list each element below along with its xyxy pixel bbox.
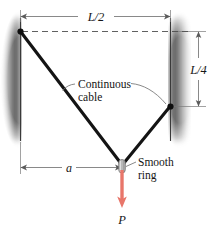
anchor-dot-left: [17, 28, 23, 34]
annotation-smooth-ring: Smooth ring: [126, 156, 174, 182]
right-wall-shading: [170, 16, 189, 142]
dim-label-L2: L/2: [87, 10, 105, 24]
dim-label-a: a: [66, 161, 72, 175]
statics-figure: L/2 L/4 a: [0, 0, 220, 228]
annotation-cable-line1: Continuous: [78, 78, 132, 90]
left-wall: [1, 16, 21, 142]
dim-label-L4: L/4: [189, 63, 207, 77]
dimension-drop-L4: L/4: [189, 32, 207, 107]
load-label-P: P: [117, 213, 126, 227]
right-wall: [170, 16, 189, 142]
figure-container: L/2 L/4 a: [0, 0, 220, 228]
dimension-span-L2: L/2: [21, 10, 171, 24]
annotation-ring-line2: ring: [138, 169, 157, 182]
dimension-offset-a: a: [21, 161, 122, 175]
left-wall-shading: [1, 16, 20, 142]
annotation-cable-line2: cable: [78, 91, 102, 103]
cable-segment-right: [124, 107, 171, 164]
anchor-dot-right: [167, 103, 173, 109]
annotation-continuous-cable: Continuous cable: [63, 78, 167, 104]
cable-segment-left: [21, 32, 122, 164]
load-arrow-P: P: [117, 170, 127, 227]
leader-line-cable-right: [131, 84, 166, 105]
leader-line-ring: [126, 162, 136, 167]
annotation-ring-line1: Smooth: [138, 156, 174, 168]
